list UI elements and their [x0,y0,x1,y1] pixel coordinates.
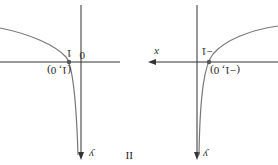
right-point-label: (−1, 0) [210,64,240,77]
left-y-axis-label: y [89,149,95,161]
left-tick-1-label: 1 [67,48,73,60]
right-point-marker [207,60,211,64]
left-graph: 0 1 (1, 0) y II [0,5,133,162]
right-graph: x −1 (−1, 0) y [148,5,278,161]
left-point-label: (1, 0) [47,64,71,77]
left-log-curve [0,28,78,155]
caption-label: II [125,150,133,162]
left-origin-label: 0 [79,50,85,62]
right-log-curve [199,26,278,155]
right-y-axis-label: y [203,149,209,161]
right-x-axis-label: x [154,47,160,59]
right-tick-minus-1-label: −1 [201,46,213,58]
diagram: 0 1 (1, 0) y II x −1 (−1, 0) y [0,0,278,165]
graphs-svg: 0 1 (1, 0) y II x −1 (−1, 0) y [0,0,278,165]
left-y-arrow-icon [78,152,84,160]
